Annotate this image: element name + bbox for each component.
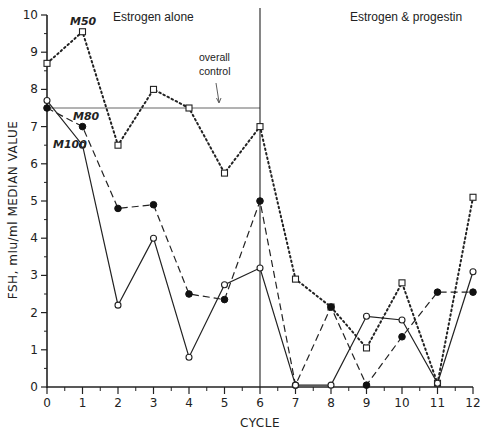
data-point-square <box>222 170 228 176</box>
x-tick-label: 1 <box>79 396 87 410</box>
data-point-square <box>44 60 50 66</box>
data-point-square <box>115 142 121 148</box>
x-tick-label: 11 <box>430 396 445 410</box>
data-point-filled-circle <box>44 105 51 112</box>
data-point-filled-circle <box>79 123 86 130</box>
data-point-square <box>470 194 476 200</box>
series-label-m100: M100 <box>53 138 87 151</box>
data-point-open-circle <box>186 354 192 360</box>
y-tick-label: 7 <box>30 120 38 134</box>
data-point-square <box>364 345 370 351</box>
data-point-square <box>257 124 263 130</box>
data-point-filled-circle <box>221 296 228 303</box>
x-tick-label: 5 <box>221 396 229 410</box>
y-tick-label: 6 <box>30 157 38 171</box>
series-label-m80: M80 <box>73 110 100 123</box>
axes: 0123456789100123456789101112 <box>23 8 481 410</box>
data-point-open-circle <box>257 265 263 271</box>
control-annotation-line2: control <box>199 65 231 77</box>
fsh-median-chart: 0123456789100123456789101112 Estrogen al… <box>0 0 488 436</box>
x-tick-label: 7 <box>292 396 300 410</box>
y-tick-label: 8 <box>30 82 38 96</box>
data-point-square <box>293 276 299 282</box>
data-point-filled-circle <box>363 382 370 389</box>
data-point-square <box>186 105 192 111</box>
data-point-filled-circle <box>470 289 477 296</box>
data-point-filled-circle <box>434 289 441 296</box>
y-tick-label: 9 <box>30 45 38 59</box>
y-tick-label: 2 <box>30 306 38 320</box>
data-point-square <box>399 280 405 286</box>
x-axis-title: CYCLE <box>240 416 280 430</box>
data-point-filled-circle <box>115 205 122 212</box>
data-point-open-circle <box>151 235 157 241</box>
data-point-square <box>151 86 157 92</box>
data-point-open-circle <box>293 382 299 388</box>
data-point-filled-circle <box>399 333 406 340</box>
y-tick-label: 5 <box>30 194 38 208</box>
data-point-square <box>80 29 86 35</box>
x-tick-label: 6 <box>256 396 264 410</box>
x-tick-label: 10 <box>394 396 409 410</box>
data-point-filled-circle <box>328 304 335 311</box>
y-tick-label: 3 <box>30 268 38 282</box>
phase-label-estrogen-alone: Estrogen alone <box>113 10 194 24</box>
x-tick-label: 3 <box>150 396 158 410</box>
series-label-m50: M50 <box>70 15 97 28</box>
data-point-open-circle <box>364 313 370 319</box>
data-point-filled-circle <box>186 291 193 298</box>
data-point-open-circle <box>399 317 405 323</box>
x-tick-label: 12 <box>465 396 480 410</box>
x-tick-label: 4 <box>185 396 193 410</box>
control-annotation-line1: overall <box>199 51 230 63</box>
y-tick-label: 0 <box>30 380 38 394</box>
data-point-open-circle <box>115 302 121 308</box>
data-point-open-circle <box>222 282 228 288</box>
x-tick-label: 9 <box>363 396 371 410</box>
phase-label-estrogen-progestin: Estrogen & progestin <box>350 10 462 24</box>
x-tick-label: 8 <box>327 396 335 410</box>
y-tick-label: 10 <box>23 8 38 22</box>
y-tick-label: 1 <box>30 343 38 357</box>
data-point-filled-circle <box>257 198 264 205</box>
x-tick-label: 0 <box>43 396 51 410</box>
y-tick-label: 4 <box>30 231 38 245</box>
data-point-filled-circle <box>150 201 157 208</box>
data-point-open-circle <box>435 380 441 386</box>
y-axis-title: FSH, mIu/ml MEDIAN VALUE <box>6 121 20 300</box>
data-point-open-circle <box>44 98 50 104</box>
data-point-open-circle <box>328 382 334 388</box>
data-point-open-circle <box>470 269 476 275</box>
x-tick-label: 2 <box>114 396 122 410</box>
